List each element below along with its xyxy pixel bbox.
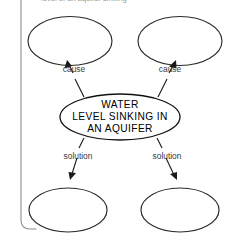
concept-map-svg: cause cause solution solution WATER LEVE… bbox=[0, 0, 233, 239]
central-topic-line-2: LEVEL SINKING IN bbox=[72, 111, 167, 122]
connector-cause-right-lower bbox=[158, 79, 167, 97]
solution-oval-bottom-left[interactable] bbox=[29, 188, 107, 232]
arrowhead-solution-right bbox=[170, 172, 177, 180]
central-topic-line-3: AN AQUIFER bbox=[87, 123, 153, 134]
connector-solution-right-upper bbox=[157, 138, 162, 148]
cause-oval-top-left[interactable] bbox=[28, 17, 112, 66]
diagram-canvas: level of an aquifer sinking cause cause … bbox=[0, 0, 233, 239]
arrowhead-solution-left bbox=[69, 172, 77, 180]
solution-oval-bottom-right[interactable] bbox=[141, 188, 219, 232]
edge-label-solution-right: solution bbox=[153, 151, 182, 161]
central-topic-line-1: WATER bbox=[101, 99, 139, 110]
cause-oval-top-right[interactable] bbox=[138, 17, 222, 66]
edge-label-cause-right: cause bbox=[159, 64, 182, 74]
edge-label-solution-left: solution bbox=[64, 151, 93, 161]
connector-cause-left-lower bbox=[75, 79, 84, 97]
edge-label-cause-left: cause bbox=[63, 64, 86, 74]
connector-solution-left-upper bbox=[79, 138, 84, 148]
